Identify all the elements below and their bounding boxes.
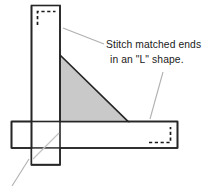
vertical-strip-lower-interior [32, 149, 59, 165]
sewing-diagram: Stitch matched ends in an "L" shape. [0, 0, 210, 188]
top-stitch-corner-icon [38, 12, 56, 26]
leader-to-top-stitch-line [63, 28, 104, 44]
caption-text-block: Stitch matched ends in an "L" shape. [106, 38, 210, 67]
diagram-canvas [0, 0, 210, 188]
leader-to-intersection-line [12, 159, 29, 186]
caption-line-1: Stitch matched ends [106, 38, 210, 53]
leader-to-right-stitch-line [150, 72, 163, 119]
caption-line-2: in an "L" shape. [106, 53, 210, 68]
horizontal-strip-shape [12, 122, 178, 149]
